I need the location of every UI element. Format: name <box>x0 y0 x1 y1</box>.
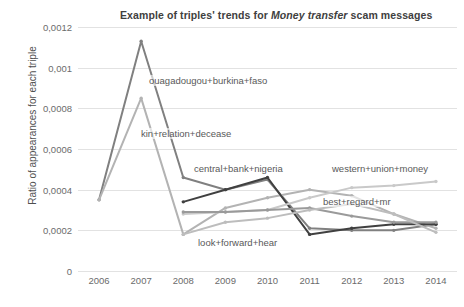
y-tick-label: 0,0008 <box>43 103 72 114</box>
series-point <box>182 200 185 203</box>
series-point <box>308 196 311 199</box>
series-point <box>308 227 311 230</box>
y-tick-label: 0,0002 <box>43 225 72 236</box>
series-point <box>350 214 353 217</box>
chart-container: Example of triples' trends for Money tra… <box>0 0 464 307</box>
series-label: best+regard+mr <box>322 196 392 207</box>
chart-title-italic: Money transfer <box>271 9 348 21</box>
series-point <box>139 96 142 99</box>
series-point <box>224 221 227 224</box>
gridline <box>78 271 457 272</box>
x-tick-label: 2008 <box>173 275 194 286</box>
chart-title-before: Example of triples' trends for <box>120 9 271 21</box>
series-point <box>308 233 311 236</box>
series-point <box>224 210 227 213</box>
x-tick-label: 2010 <box>257 275 278 286</box>
y-tick-label: 0,001 <box>48 62 72 73</box>
x-tick-label: 2006 <box>88 275 109 286</box>
series-point <box>308 188 311 191</box>
x-tick-label: 2009 <box>215 275 236 286</box>
series-point <box>392 212 395 215</box>
series-point <box>392 229 395 232</box>
series-label: look+forward+hear <box>197 237 278 248</box>
x-tick-label: 2011 <box>299 275 319 286</box>
series-point <box>434 180 437 183</box>
series-label: western+union+money <box>331 163 429 174</box>
x-tick-label: 2012 <box>341 275 362 286</box>
y-tick-label: 0 <box>67 266 72 277</box>
series-point <box>182 176 185 179</box>
series-point <box>139 40 142 43</box>
series-point <box>266 208 269 211</box>
series-point <box>392 221 395 224</box>
y-tick-label: 0,0004 <box>43 184 72 195</box>
series-point <box>182 210 185 213</box>
series-label: kin+relation+decease <box>140 128 232 139</box>
series-point <box>97 198 100 201</box>
plot-area: 00,00020,00040,00060,00080,0010,0012 200… <box>78 27 457 271</box>
series-point <box>182 233 185 236</box>
x-tick-label: 2014 <box>425 275 446 286</box>
series-lines <box>78 27 457 271</box>
chart-title-after: scam messages <box>348 9 433 21</box>
series-point <box>350 186 353 189</box>
series-point <box>350 227 353 230</box>
y-axis-title: Ratio of appearances for each triple <box>27 21 38 231</box>
x-tick-label: 2013 <box>383 275 404 286</box>
series-point <box>434 221 437 224</box>
chart-title: Example of triples' trends for Money tra… <box>120 9 464 21</box>
series-point <box>392 184 395 187</box>
y-tick-label: 0,0012 <box>43 22 72 33</box>
series-label: ouagadougou+burkina+faso <box>148 75 268 86</box>
series-point <box>224 206 227 209</box>
x-tick-label: 2007 <box>131 275 152 286</box>
series-point <box>266 216 269 219</box>
series-point <box>434 231 437 234</box>
series-point <box>266 176 269 179</box>
series-point <box>266 196 269 199</box>
series-point <box>434 227 437 230</box>
series-label: central+bank+nigeria <box>193 163 284 174</box>
series-point <box>308 208 311 211</box>
series-point <box>224 188 227 191</box>
y-tick-label: 0,0006 <box>43 144 72 155</box>
